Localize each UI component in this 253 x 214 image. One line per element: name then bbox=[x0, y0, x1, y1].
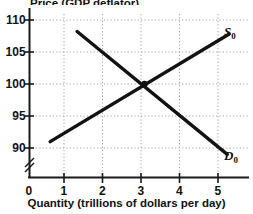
x-axis bbox=[28, 173, 249, 183]
equilibrium-point bbox=[141, 81, 147, 87]
supply-curve-label-subscript: 0 bbox=[231, 31, 236, 41]
demand-curve-label: D0 bbox=[224, 148, 238, 164]
y-tick-label-100: 100 bbox=[0, 77, 26, 91]
supply-curve-label: S0 bbox=[224, 24, 236, 40]
x-tick-label-0: 0 bbox=[19, 184, 39, 198]
y-tick-label-110: 110 bbox=[0, 13, 26, 27]
demand-curve-label-subscript: 0 bbox=[233, 155, 238, 165]
y-tick-label-95: 95 bbox=[0, 109, 26, 123]
x-axis-title: Quantity (trillions of dollars per day) bbox=[0, 197, 253, 209]
y-tick-label-90: 90 bbox=[0, 141, 26, 155]
chart-canvas bbox=[0, 0, 253, 214]
x-tick-label-1: 1 bbox=[54, 184, 74, 198]
y-axis bbox=[25, 8, 34, 178]
x-tick-label-3: 3 bbox=[131, 184, 151, 198]
x-tick-label-2: 2 bbox=[93, 184, 113, 198]
demand-curve-label-text: D bbox=[224, 148, 233, 163]
supply-demand-chart: Price (GDP deflator) bbox=[0, 0, 253, 214]
x-tick-label-5: 5 bbox=[208, 184, 228, 198]
supply-curve bbox=[50, 34, 229, 142]
x-tick-label-4: 4 bbox=[170, 184, 190, 198]
y-tick-label-105: 105 bbox=[0, 45, 26, 59]
